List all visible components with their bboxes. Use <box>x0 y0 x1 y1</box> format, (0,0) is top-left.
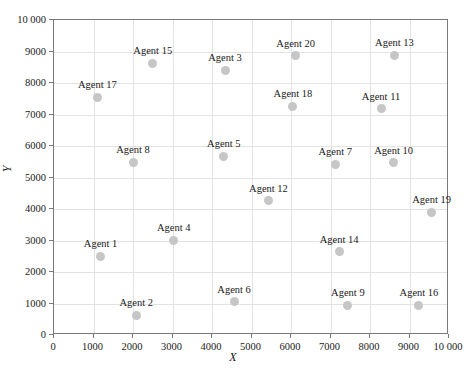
y-tick-label: 9000 <box>25 45 46 56</box>
gridline-horizontal <box>54 178 447 179</box>
data-point[interactable] <box>343 301 352 310</box>
data-point[interactable] <box>129 158 138 167</box>
y-tick-label: 8000 <box>25 77 46 88</box>
x-axis-title: X <box>0 350 466 365</box>
y-tick-mark <box>49 334 53 335</box>
gridline-vertical <box>331 20 332 333</box>
y-tick-label: 0 <box>41 329 46 340</box>
data-point-label: Agent 20 <box>276 38 315 49</box>
data-point[interactable] <box>427 208 436 217</box>
gridline-horizontal <box>54 272 447 273</box>
data-point[interactable] <box>377 104 386 113</box>
y-tick-mark <box>49 271 53 272</box>
data-point-label: Agent 17 <box>78 79 117 90</box>
data-point-label: Agent 1 <box>84 238 118 249</box>
data-point-label: Agent 12 <box>249 183 288 194</box>
y-tick-mark <box>49 82 53 83</box>
data-point-label: Agent 6 <box>217 284 251 295</box>
x-tick-mark <box>290 334 291 338</box>
y-tick-label: 4000 <box>25 203 46 214</box>
y-tick-label: 5000 <box>25 171 46 182</box>
data-point-label: Agent 9 <box>331 287 365 298</box>
data-point[interactable] <box>148 59 157 68</box>
x-tick-mark <box>53 334 54 338</box>
data-point[interactable] <box>221 66 230 75</box>
data-point[interactable] <box>264 196 273 205</box>
x-tick-mark <box>330 334 331 338</box>
data-point-label: Agent 5 <box>207 138 241 149</box>
gridline-horizontal <box>54 115 447 116</box>
gridline-horizontal <box>54 209 447 210</box>
y-tick-mark <box>49 303 53 304</box>
data-point-label: Agent 13 <box>375 37 414 48</box>
x-tick-mark <box>448 334 449 338</box>
gridline-vertical <box>173 20 174 333</box>
y-tick-mark <box>49 240 53 241</box>
gridline-vertical <box>291 20 292 333</box>
data-point[interactable] <box>169 236 178 245</box>
data-point[interactable] <box>335 247 344 256</box>
data-point[interactable] <box>390 51 399 60</box>
y-tick-mark <box>49 51 53 52</box>
x-tick-mark <box>409 334 410 338</box>
x-tick-mark <box>93 334 94 338</box>
data-point[interactable] <box>132 311 141 320</box>
x-tick-mark <box>211 334 212 338</box>
data-point-label: Agent 8 <box>116 144 150 155</box>
data-point-label: Agent 11 <box>362 91 400 102</box>
data-point[interactable] <box>291 51 300 60</box>
data-point[interactable] <box>219 152 228 161</box>
y-tick-mark <box>49 145 53 146</box>
data-point[interactable] <box>331 160 340 169</box>
data-point-label: Agent 16 <box>400 287 439 298</box>
y-tick-label: 6000 <box>25 140 46 151</box>
y-tick-label: 7000 <box>25 108 46 119</box>
y-tick-mark <box>49 208 53 209</box>
x-tick-mark <box>251 334 252 338</box>
gridline-horizontal <box>54 52 447 53</box>
plot-area: Agent 1Agent 2Agent 3Agent 4Agent 5Agent… <box>53 19 448 334</box>
data-point[interactable] <box>96 252 105 261</box>
data-point-label: Agent 19 <box>412 194 451 205</box>
data-point[interactable] <box>414 301 423 310</box>
data-point-label: Agent 7 <box>318 146 352 157</box>
data-point-label: Agent 18 <box>274 88 313 99</box>
y-tick-label: 10 000 <box>17 14 46 25</box>
x-tick-mark <box>369 334 370 338</box>
scatter-plot-figure: Agent 1Agent 2Agent 3Agent 4Agent 5Agent… <box>0 0 466 370</box>
data-point-label: Agent 15 <box>133 45 172 56</box>
data-point[interactable] <box>389 158 398 167</box>
data-point[interactable] <box>288 102 297 111</box>
y-tick-label: 2000 <box>25 266 46 277</box>
gridline-horizontal <box>54 304 447 305</box>
y-tick-label: 3000 <box>25 234 46 245</box>
data-point-label: Agent 4 <box>157 222 191 233</box>
data-point-label: Agent 14 <box>320 234 359 245</box>
data-point-label: Agent 10 <box>374 145 413 156</box>
data-point-label: Agent 3 <box>208 52 242 63</box>
data-point[interactable] <box>230 297 239 306</box>
y-axis-title: Y <box>0 166 15 173</box>
gridline-vertical <box>410 20 411 333</box>
x-tick-mark <box>172 334 173 338</box>
gridline-vertical <box>212 20 213 333</box>
gridline-vertical <box>370 20 371 333</box>
y-tick-mark <box>49 177 53 178</box>
y-tick-mark <box>49 114 53 115</box>
gridline-vertical <box>94 20 95 333</box>
data-point-label: Agent 2 <box>119 297 153 308</box>
y-tick-label: 1000 <box>25 297 46 308</box>
gridline-vertical <box>133 20 134 333</box>
x-tick-mark <box>132 334 133 338</box>
y-tick-mark <box>49 19 53 20</box>
gridline-vertical <box>252 20 253 333</box>
data-point[interactable] <box>93 93 102 102</box>
